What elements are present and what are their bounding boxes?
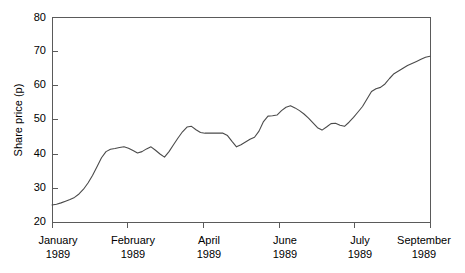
x-tick-label-september-year: 1989 [412, 248, 436, 260]
x-tick-label-february-month: February [111, 234, 156, 246]
x-tick-label-february-year: 1989 [121, 248, 145, 260]
y-tick-label-30: 30 [34, 181, 46, 193]
y-axis-tick-labels: 20 30 40 50 60 70 80 [34, 11, 46, 227]
y-tick-label-70: 70 [34, 44, 46, 56]
x-tick-label-july-year: 1989 [348, 248, 372, 260]
share-price-chart-figure: 20 30 40 50 60 70 80 Share price (p) Jan… [0, 0, 465, 273]
y-tick-label-50: 50 [34, 112, 46, 124]
x-tick-label-january-month: January [38, 234, 78, 246]
y-axis-title: Share price (p) [12, 84, 24, 157]
x-tick-label-april-year: 1989 [197, 248, 221, 260]
x-tick-label-july-month: July [350, 234, 370, 246]
y-tick-label-40: 40 [34, 147, 46, 159]
y-tick-label-60: 60 [34, 78, 46, 90]
plot-area-background [52, 17, 430, 222]
x-tick-label-september-month: September [397, 234, 451, 246]
x-axis-ticks [52, 222, 430, 228]
chart-canvas: 20 30 40 50 60 70 80 Share price (p) Jan… [0, 0, 465, 273]
x-tick-label-june-year: 1989 [273, 248, 297, 260]
x-tick-label-april-month: April [198, 234, 220, 246]
x-axis-tick-labels: January 1989 February 1989 April 1989 Ju… [38, 234, 451, 260]
x-tick-label-june-month: June [273, 234, 297, 246]
x-tick-label-january-year: 1989 [46, 248, 70, 260]
y-tick-label-80: 80 [34, 11, 46, 23]
y-tick-label-20: 20 [34, 215, 46, 227]
